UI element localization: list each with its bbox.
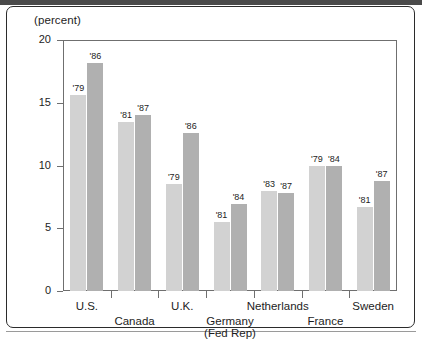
- x-axis-category-label-line1: Germany: [185, 315, 275, 327]
- x-axis-category-label: Sweden: [328, 300, 418, 312]
- bar: [309, 166, 325, 292]
- x-axis-tick-mark: [349, 291, 350, 298]
- bar: [183, 133, 199, 291]
- bar-year-label: '86: [81, 51, 109, 61]
- y-axis-label: (percent): [34, 14, 81, 26]
- bar: [261, 191, 277, 291]
- x-axis-category-label: Netherlands: [233, 300, 323, 312]
- x-axis-category-label-line1: Canada: [90, 315, 180, 327]
- bar: [135, 115, 151, 291]
- x-axis-tick-mark: [302, 291, 303, 298]
- x-axis-category-label: U.K.: [137, 300, 227, 312]
- x-axis-tick-mark: [206, 291, 207, 298]
- y-axis-tick-label: 0: [25, 284, 51, 296]
- bar: [118, 122, 134, 291]
- x-axis-category-label-line2: (Fed Rep): [185, 327, 275, 339]
- x-axis-category-label: Canada: [90, 315, 180, 327]
- bar: [374, 181, 390, 291]
- x-axis-category-label-line1: U.S.: [42, 300, 132, 312]
- y-axis-tick-label: 5: [25, 221, 51, 233]
- x-axis-category-label-line1: Sweden: [328, 300, 418, 312]
- bar-year-label: '84: [320, 154, 348, 164]
- x-axis-category-label: Germany(Fed Rep): [185, 315, 275, 339]
- grouped-bar-chart: (percent) 05101520 '79'86'81'87'79'86'81…: [0, 0, 422, 342]
- bar: [231, 204, 247, 291]
- x-axis-category-label: U.S.: [42, 300, 132, 312]
- x-axis-tick-mark: [158, 291, 159, 298]
- y-axis-tick-label: 20: [25, 33, 51, 45]
- bar-year-label: '87: [368, 169, 396, 179]
- bar: [326, 166, 342, 292]
- chart-page: (percent) 05101520 '79'86'81'87'79'86'81…: [0, 0, 422, 342]
- y-axis-tick-label: 10: [25, 159, 51, 171]
- bar-year-label: '86: [177, 121, 205, 131]
- bar: [70, 95, 86, 291]
- y-axis-tick-label: 15: [25, 96, 51, 108]
- bar: [278, 193, 294, 291]
- x-axis-category-label-line1: U.K.: [137, 300, 227, 312]
- bar-year-label: '84: [225, 192, 253, 202]
- x-axis-category-label-line1: Netherlands: [233, 300, 323, 312]
- bars-layer: '79'86'81'87'79'86'81'84'83'87'79'84'81'…: [63, 40, 397, 291]
- x-axis-tick-mark: [111, 291, 112, 298]
- y-axis-tick-mark: [57, 291, 63, 292]
- x-axis-tick-mark: [254, 291, 255, 298]
- x-axis-category-label: France: [280, 315, 370, 327]
- bar: [166, 184, 182, 291]
- bar-year-label: '87: [272, 181, 300, 191]
- bar: [87, 63, 103, 291]
- bar: [357, 207, 373, 291]
- bar-year-label: '87: [129, 103, 157, 113]
- bar: [214, 222, 230, 291]
- x-axis-category-label-line1: France: [280, 315, 370, 327]
